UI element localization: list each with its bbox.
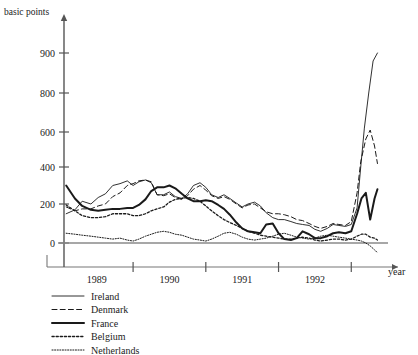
x-axis-tick-label: 1989 [87, 274, 107, 285]
legend-label-france: France [91, 318, 119, 329]
x-axis-tick-label: 1991 [232, 274, 252, 285]
legend-label-netherlands: Netherlands [91, 345, 139, 355]
series-line-ireland [66, 53, 377, 231]
x-axis-label: year [388, 266, 406, 277]
series-line-france [66, 186, 377, 241]
legend-label-denmark: Denmark [91, 304, 128, 315]
x-axis: 1989199019911992 [87, 262, 352, 285]
y-axis-arrow [61, 14, 67, 21]
plot-frame [47, 255, 398, 270]
x-axis-tick-label: 1990 [159, 274, 179, 285]
x-axis-tick-label: 1992 [305, 274, 325, 285]
y-axis-tick-label: 200 [40, 199, 55, 210]
basic-points-line-chart: basic points 0200400600800900 1989199019… [0, 0, 418, 355]
y-axis: 0200400600800900 [40, 14, 388, 267]
y-axis-tick-label: 900 [40, 48, 55, 59]
series-layer [66, 53, 377, 253]
chart-container: basic points 0200400600800900 1989199019… [0, 0, 418, 355]
legend-label-belgium: Belgium [91, 331, 126, 342]
y-axis-tick-label: 0 [50, 238, 55, 249]
legend: IrelandDenmarkFranceBelgiumNetherlands [52, 291, 139, 355]
y-axis-tick-label: 600 [40, 127, 55, 138]
y-axis-tick-label: 400 [40, 162, 55, 173]
legend-label-ireland: Ireland [91, 291, 119, 302]
y-axis-tick-label: 800 [40, 88, 55, 99]
y-axis-label: basic points [4, 7, 49, 17]
